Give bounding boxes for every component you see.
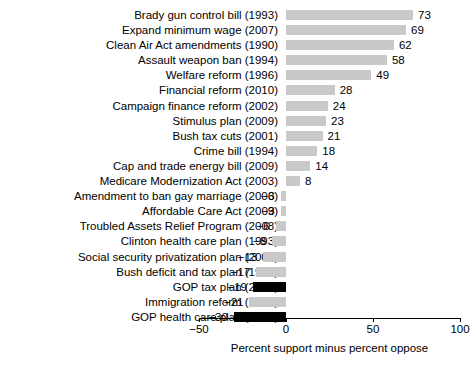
bar-chart: Brady gun control bill (1993)Expand mini… — [0, 0, 476, 368]
x-tick — [373, 318, 374, 322]
x-tick-label: 100 — [450, 323, 469, 335]
bar-row: 58 — [0, 53, 476, 68]
bar-row: −3 — [0, 189, 476, 204]
bar-row: −6 — [0, 219, 476, 234]
x-tick — [199, 318, 200, 322]
bar-value-label: 73 — [418, 8, 431, 22]
bar — [281, 191, 286, 201]
bar — [286, 40, 394, 50]
bar-row: −17 — [0, 265, 476, 280]
bar-value-label: −3 — [262, 204, 275, 218]
bar-row: 62 — [0, 38, 476, 53]
bar-row: 28 — [0, 83, 476, 98]
bar-row: 69 — [0, 23, 476, 38]
bar-value-label: −17 — [231, 265, 251, 279]
bar — [286, 131, 323, 141]
bar-value-label: 58 — [392, 53, 405, 67]
bar-row: −8 — [0, 234, 476, 249]
bar-row: 73 — [0, 8, 476, 23]
x-tick-label: 50 — [367, 323, 380, 335]
bar-row: 21 — [0, 129, 476, 144]
plot-area: 73696258492824232118148−3−3−6−8−13−17−19… — [0, 8, 476, 318]
bar-row: 18 — [0, 144, 476, 159]
bar-row: −21 — [0, 295, 476, 310]
bar-value-label: −30 — [208, 310, 228, 324]
bar — [276, 221, 286, 231]
bar-row: 23 — [0, 114, 476, 129]
bar — [286, 176, 300, 186]
bar — [249, 297, 286, 307]
bar — [272, 236, 286, 246]
bar — [286, 25, 406, 35]
bar-value-label: 14 — [315, 159, 328, 173]
bar-row: −3 — [0, 204, 476, 219]
bar-value-label: −3 — [262, 189, 275, 203]
x-axis-title: Percent support minus percent oppose — [199, 342, 460, 354]
bar-value-label: 23 — [331, 114, 344, 128]
bar — [234, 312, 286, 322]
bar — [256, 267, 286, 277]
bar-row: 49 — [0, 68, 476, 83]
bar-value-label: −19 — [227, 280, 247, 294]
bar-value-label: 24 — [333, 99, 346, 113]
bar-value-label: 62 — [399, 38, 412, 52]
bar — [286, 10, 413, 20]
bar-value-label: 28 — [340, 83, 353, 97]
bar-value-label: −8 — [253, 234, 266, 248]
bar — [281, 206, 286, 216]
bar-row: 24 — [0, 99, 476, 114]
bar-row: −19 — [0, 280, 476, 295]
bar-value-label: −21 — [224, 295, 244, 309]
bar — [286, 161, 310, 171]
x-tick-label: 0 — [283, 323, 289, 335]
bar — [286, 55, 387, 65]
bar-value-label: 18 — [322, 144, 335, 158]
x-tick — [286, 318, 287, 322]
bar — [286, 70, 371, 80]
bar-row: 8 — [0, 174, 476, 189]
bar — [286, 85, 335, 95]
x-axis-line — [199, 318, 460, 319]
bar — [286, 101, 328, 111]
bar-row: 14 — [0, 159, 476, 174]
bar-value-label: −6 — [256, 219, 269, 233]
bar — [286, 146, 317, 156]
x-tick-label: −50 — [189, 323, 209, 335]
bar — [263, 252, 286, 262]
x-tick — [460, 318, 461, 322]
bar-value-label: 21 — [328, 129, 341, 143]
bar-row: −13 — [0, 250, 476, 265]
bar-value-label: 49 — [376, 68, 389, 82]
bar — [286, 116, 326, 126]
bar — [253, 282, 286, 292]
bar-value-label: 69 — [411, 23, 424, 37]
bar-value-label: 8 — [305, 174, 311, 188]
bar-value-label: −13 — [238, 250, 258, 264]
